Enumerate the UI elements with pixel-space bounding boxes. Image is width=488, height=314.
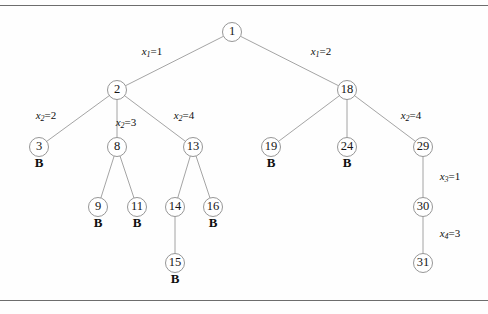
leaf-bound-marker: B [209, 215, 218, 230]
tree-edge [120, 156, 134, 198]
node-label: 14 [169, 199, 182, 213]
leaf-bound-marker: B [133, 215, 142, 230]
edge-label: x2=4 [400, 109, 422, 123]
node-label: 11 [131, 199, 143, 213]
edge-label: x1=2 [310, 45, 332, 59]
tree-node[interactable]: 15B [166, 254, 185, 287]
edge-label: x1=1 [141, 45, 163, 59]
leaf-bound-marker: B [267, 155, 276, 170]
leaf-bound-marker: B [343, 155, 352, 170]
nodes-layer: 12183B81319B24B299B11B1416B3015B31 [30, 23, 433, 287]
edge-label: x4=3 [439, 227, 461, 241]
edge-label: x3=1 [439, 170, 461, 184]
node-label: 13 [187, 139, 200, 153]
tree-node[interactable]: 30 [414, 198, 433, 217]
tree-node[interactable]: 2 [108, 81, 127, 100]
node-label: 29 [417, 139, 430, 153]
tree-node[interactable]: 24B [338, 138, 357, 171]
tree-diagram-figure: x1=1x1=2x2=2x2=3x2=4x2=4x3=1x4=3 12183B8… [0, 0, 488, 314]
node-label: 30 [417, 199, 430, 213]
node-label: 24 [341, 139, 354, 153]
node-label: 31 [417, 255, 430, 269]
tree-edge [125, 36, 223, 85]
tree-node[interactable]: 16B [204, 198, 223, 231]
node-label: 3 [36, 139, 42, 153]
edges-layer [47, 36, 423, 253]
node-label: 1 [229, 24, 235, 38]
node-label: 2 [114, 82, 120, 96]
node-label: 18 [341, 82, 354, 96]
tree-edge [178, 156, 191, 198]
edge-label: x2=2 [35, 109, 57, 123]
node-label: 8 [114, 139, 120, 153]
tree-canvas: x1=1x1=2x2=2x2=3x2=4x2=4x3=1x4=3 12183B8… [0, 0, 488, 314]
node-label: 15 [169, 255, 182, 269]
tree-node[interactable]: 31 [414, 254, 433, 273]
node-label: 16 [207, 199, 220, 213]
leaf-bound-marker: B [171, 271, 180, 286]
tree-node[interactable]: 1 [223, 23, 242, 42]
tree-node[interactable]: 19B [262, 138, 281, 171]
leaf-bound-marker: B [94, 215, 103, 230]
tree-node[interactable]: 13 [184, 138, 203, 157]
tree-node[interactable]: 9B [89, 198, 108, 231]
tree-node[interactable]: 14 [166, 198, 185, 217]
tree-node[interactable]: 11B [128, 198, 147, 231]
edge-label: x2=4 [173, 109, 195, 123]
tree-node[interactable]: 29 [414, 138, 433, 157]
tree-edge [196, 156, 210, 198]
edge-label: x2=3 [115, 116, 137, 130]
tree-node[interactable]: 18 [338, 81, 357, 100]
tree-edge [101, 156, 114, 198]
leaf-bound-marker: B [35, 155, 44, 170]
node-label: 19 [265, 139, 278, 153]
tree-edge [279, 96, 340, 142]
tree-node[interactable]: 3B [30, 138, 49, 171]
node-label: 9 [95, 199, 101, 213]
tree-node[interactable]: 8 [108, 138, 127, 157]
